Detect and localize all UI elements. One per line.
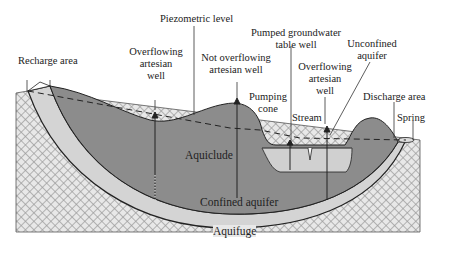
unconfined-aquifer-region [262,148,352,172]
label-not-overflowing-well: Not overflowing artesian well [198,52,274,76]
label-recharge-area: Recharge area [18,55,78,67]
label-overflowing-well-right: Overflowing artesian well [296,61,354,97]
label-unconfined-aquifer: Unconfined aquifer [344,38,400,62]
label-pumping-cone: Pumping cone [245,91,291,115]
label-aquiclude: Aquiclude [185,149,233,161]
label-overflowing-well-left: Overflowing artesian well [128,46,184,82]
label-piezometric-level: Piezometric level [160,13,233,25]
label-pumped-well: Pumped groundwater table well [242,27,350,51]
label-spring: Spring [397,112,425,124]
label-discharge-area: Discharge area [363,91,425,103]
label-confined-aquifer: Confined aquifer [200,196,278,208]
label-aquifuge: Aquifuge [213,225,256,237]
label-stream: Stream [292,112,322,124]
